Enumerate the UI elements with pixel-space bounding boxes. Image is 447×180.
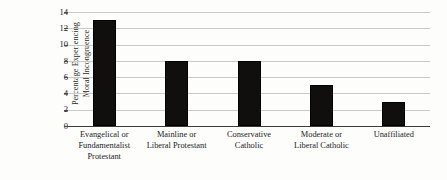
x-axis-category-label-line: Liberal Catholic [285, 140, 357, 151]
bar [382, 102, 405, 126]
x-axis-category-label-line: Protestant [68, 151, 140, 162]
x-axis-category-label-line: Catholic [213, 140, 285, 151]
x-axis-category-label: Evangelical orFundamentalistProtestant [68, 129, 140, 163]
x-axis-category-label: Mainline orLiberal Protestant [140, 129, 212, 151]
bar [310, 85, 333, 126]
x-axis-category-label-line: Mainline or [140, 129, 212, 140]
y-axis-ticks: 14121086420 [44, 0, 68, 140]
x-axis-category-label-line: Moderate or [285, 129, 357, 140]
x-axis-line [68, 126, 430, 127]
bar [165, 61, 188, 126]
x-axis-category-label-line: Evangelical or [68, 129, 140, 140]
x-axis-category-label: Unaffiliated [358, 129, 430, 140]
gridline [68, 28, 430, 29]
x-axis-labels: Evangelical orFundamentalistProtestantMa… [68, 129, 430, 177]
x-axis-category-label-line: Unaffiliated [358, 129, 430, 140]
bar-chart-figure: Percentage Experiencing Moral Incongruen… [0, 0, 447, 180]
gridline [68, 45, 430, 46]
x-axis-category-label: Moderate orLiberal Catholic [285, 129, 357, 151]
gridline [68, 12, 430, 13]
x-axis-category-label-line: Conservative [213, 129, 285, 140]
x-axis-category-label-line: Liberal Protestant [140, 140, 212, 151]
x-axis-category-label-line: Fundamentalist [68, 140, 140, 151]
plot-area [68, 12, 430, 126]
x-axis-category-label: ConservativeCatholic [213, 129, 285, 151]
bar [93, 20, 116, 126]
bar [238, 61, 261, 126]
